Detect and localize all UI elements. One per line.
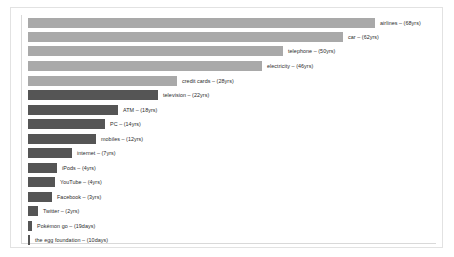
chart-screenshot: airlines – (68yrs)car – (62yrs)telephone…: [0, 0, 454, 257]
bar: [28, 46, 283, 56]
bar-row: car – (62yrs): [28, 32, 379, 42]
bar-label: television – (22yrs): [163, 90, 209, 100]
bar-label: mobiles – (12yrs): [101, 134, 143, 144]
bar-row: internet – (7yrs): [28, 148, 116, 158]
bar: [28, 177, 55, 187]
bar-label: ATM – (18yrs): [123, 105, 157, 115]
bar-label: PC – (14yrs): [110, 119, 141, 129]
bar-row: Facebook – (3yrs): [28, 192, 101, 202]
bar: [28, 32, 343, 42]
bar-label: electricity – (46yrs): [267, 61, 313, 71]
bar-row: Twitter – (2yrs): [28, 206, 79, 216]
bar: [28, 235, 30, 245]
bar-label: car – (62yrs): [348, 32, 379, 42]
bar-row: television – (22yrs): [28, 90, 209, 100]
bar-row: the egg foundation – (10days): [28, 235, 108, 245]
bar-label: airlines – (68yrs): [380, 18, 421, 28]
bar: [28, 221, 32, 231]
bar-label: credit cards – (28yrs): [182, 76, 234, 86]
bar-label: YouTube – (4yrs): [60, 177, 102, 187]
bar-label: iPods – (4yrs): [62, 163, 96, 173]
bar-label: the egg foundation – (10days): [35, 235, 108, 245]
plot-area: airlines – (68yrs)car – (62yrs)telephone…: [0, 0, 454, 257]
bar-row: airlines – (68yrs): [28, 18, 421, 28]
bar-label: internet – (7yrs): [77, 148, 116, 158]
bar-row: ATM – (18yrs): [28, 105, 157, 115]
bar-row: Pokémon go – (19days): [28, 221, 95, 231]
bar-row: YouTube – (4yrs): [28, 177, 102, 187]
bar-label: Pokémon go – (19days): [37, 221, 95, 231]
bar: [28, 148, 72, 158]
bar-label: Twitter – (2yrs): [43, 206, 79, 216]
bar: [28, 206, 38, 216]
bar: [28, 105, 118, 115]
bar: [28, 76, 177, 86]
bar-row: credit cards – (28yrs): [28, 76, 234, 86]
bar-row: PC – (14yrs): [28, 119, 141, 129]
bar-label: Facebook – (3yrs): [57, 192, 101, 202]
bar-row: telephone – (50yrs): [28, 46, 335, 56]
bar-row: mobiles – (12yrs): [28, 134, 143, 144]
bar: [28, 61, 262, 71]
bar: [28, 134, 96, 144]
bar-row: electricity – (46yrs): [28, 61, 313, 71]
bar-label: telephone – (50yrs): [288, 46, 335, 56]
bar: [28, 163, 57, 173]
bar-row: iPods – (4yrs): [28, 163, 96, 173]
bar: [28, 18, 375, 28]
bar: [28, 192, 52, 202]
bar: [28, 90, 158, 100]
bar: [28, 119, 105, 129]
